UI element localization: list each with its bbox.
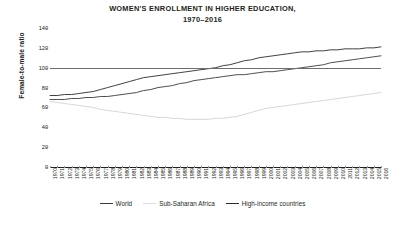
legend-swatch-icon	[226, 203, 239, 204]
x-tick-label: 2002	[282, 168, 288, 179]
x-tick-label: 1987	[175, 168, 181, 179]
x-tick-label: 1998	[254, 168, 260, 179]
x-tick-mark	[151, 166, 152, 168]
x-tick-label: 2008	[326, 168, 332, 179]
x-tick-mark	[223, 166, 224, 168]
x-tick-label: 2016	[383, 168, 389, 179]
x-tick-label: 1979	[117, 168, 123, 179]
legend-item[interactable]: Sub-Saharan Africa	[143, 200, 215, 207]
x-tick-label: 1976	[95, 168, 101, 179]
x-tick-label: 1996	[239, 168, 245, 179]
legend-swatch-icon	[100, 203, 113, 204]
x-tick-mark	[208, 166, 209, 168]
x-tick-label: 1982	[139, 168, 145, 179]
x-tick-label: 1973	[74, 168, 80, 179]
x-tick-mark	[251, 166, 252, 168]
chart-legend: WorldSub-Saharan AfricaHigh-income count…	[0, 200, 405, 207]
x-tick-mark	[79, 166, 80, 168]
x-tick-mark	[64, 166, 65, 168]
reference-line-100	[50, 68, 381, 69]
x-axis: 1970197119721973197419751976197719781979…	[50, 168, 381, 198]
x-tick-label: 2013	[362, 168, 368, 179]
x-tick-label: 1988	[182, 168, 188, 179]
x-tick-mark	[129, 166, 130, 168]
x-tick-mark	[100, 166, 101, 168]
x-tick-mark	[72, 166, 73, 168]
legend-item[interactable]: High-income countries	[226, 200, 306, 207]
x-tick-label: 2003	[290, 168, 296, 179]
x-tick-label: 1989	[189, 168, 195, 179]
x-tick-mark	[266, 166, 267, 168]
legend-label: Sub-Saharan Africa	[159, 200, 215, 207]
x-tick-label: 2014	[369, 168, 375, 179]
x-tick-mark	[172, 166, 173, 168]
x-tick-label: 1977	[103, 168, 109, 179]
x-tick-label: 1972	[67, 168, 73, 179]
y-tick-label: 100	[26, 65, 48, 71]
x-tick-mark	[331, 166, 332, 168]
x-tick-mark	[165, 166, 166, 168]
x-tick-mark	[194, 166, 195, 168]
chart-title: WOMEN'S ENROLLMENT IN HIGHER EDUCATION,	[0, 3, 405, 14]
x-tick-label: 1975	[88, 168, 94, 179]
x-tick-mark	[216, 166, 217, 168]
x-tick-mark	[180, 166, 181, 168]
y-tick-label: 40	[26, 124, 48, 130]
x-tick-mark	[273, 166, 274, 168]
x-tick-mark	[50, 166, 51, 168]
x-tick-mark	[302, 166, 303, 168]
y-tick-mark	[46, 28, 48, 29]
series-line-world	[50, 56, 381, 100]
x-tick-label: 2000	[268, 168, 274, 179]
x-tick-mark	[295, 166, 296, 168]
x-tick-label: 1991	[203, 168, 209, 179]
y-tick-label: 60	[26, 104, 48, 110]
y-tick-label: 140	[26, 25, 48, 31]
y-tick-label: 20	[26, 144, 48, 150]
y-tick-mark	[46, 167, 48, 168]
x-tick-mark	[374, 166, 375, 168]
x-tick-mark	[136, 166, 137, 168]
chart-subtitle: 1970–2016	[0, 14, 405, 25]
x-tick-label: 2007	[318, 168, 324, 179]
x-tick-mark	[338, 166, 339, 168]
x-tick-label: 1978	[110, 168, 116, 179]
series-line-high-income-countries	[50, 47, 381, 96]
x-tick-label: 2009	[333, 168, 339, 179]
x-tick-label: 1999	[261, 168, 267, 179]
y-tick-mark	[46, 48, 48, 49]
x-tick-mark	[158, 166, 159, 168]
x-tick-mark	[259, 166, 260, 168]
chart-title-block: WOMEN'S ENROLLMENT IN HIGHER EDUCATION, …	[0, 3, 405, 25]
chart-container: WOMEN'S ENROLLMENT IN HIGHER EDUCATION, …	[0, 0, 405, 225]
x-tick-label: 1997	[246, 168, 252, 179]
series-layer	[50, 28, 381, 167]
y-tick-mark	[46, 88, 48, 89]
x-tick-label: 2012	[354, 168, 360, 179]
x-tick-mark	[309, 166, 310, 168]
x-tick-mark	[187, 166, 188, 168]
x-tick-label: 1990	[196, 168, 202, 179]
x-tick-label: 2005	[304, 168, 310, 179]
legend-label: High-income countries	[242, 200, 306, 207]
x-tick-label: 1986	[167, 168, 173, 179]
y-tick-mark	[46, 68, 48, 69]
y-tick-mark	[46, 127, 48, 128]
x-tick-label: 1980	[124, 168, 130, 179]
x-tick-mark	[115, 166, 116, 168]
legend-label: World	[116, 200, 133, 207]
x-tick-label: 2010	[340, 168, 346, 179]
y-tick-label: 120	[26, 45, 48, 51]
x-tick-mark	[122, 166, 123, 168]
x-tick-label: 1981	[131, 168, 137, 179]
x-tick-label: 1994	[225, 168, 231, 179]
x-tick-label: 1984	[153, 168, 159, 179]
x-tick-label: 1995	[232, 168, 238, 179]
x-tick-label: 2011	[347, 168, 353, 179]
x-tick-mark	[144, 166, 145, 168]
x-tick-label: 1983	[146, 168, 152, 179]
x-tick-mark	[323, 166, 324, 168]
x-tick-label: 1974	[81, 168, 87, 179]
legend-item[interactable]: World	[100, 200, 133, 207]
legend-swatch-icon	[143, 203, 156, 204]
